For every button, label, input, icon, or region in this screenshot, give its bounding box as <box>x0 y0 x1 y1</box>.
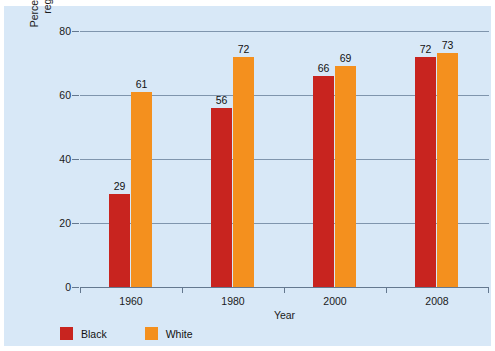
bar-value-label: 61 <box>136 78 148 90</box>
legend-label: White <box>166 328 193 340</box>
bar-rect <box>313 76 334 287</box>
ytick-dash-40 <box>72 159 79 160</box>
plot-area: 80 60 40 20 0 29 <box>80 31 489 287</box>
bar-group-2008: 72 73 2008 <box>386 31 488 287</box>
legend-swatch-icon <box>60 327 73 340</box>
ytick-label-60: 60 <box>59 89 71 101</box>
ytick-dash-80 <box>72 31 79 32</box>
legend-item-white[interactable]: White <box>145 327 193 340</box>
xtick-mark-4 <box>488 287 489 293</box>
xtick-label-1980: 1980 <box>221 295 244 307</box>
bar-rect <box>335 66 356 287</box>
legend-swatch-icon <box>145 327 158 340</box>
ytick-label-40: 40 <box>59 153 71 165</box>
ytick-label-80: 80 <box>59 25 71 37</box>
xtick-label-2000: 2000 <box>323 295 346 307</box>
bar-value-label: 72 <box>420 43 432 55</box>
legend-item-black[interactable]: Black <box>60 327 107 340</box>
x-axis-title: Year <box>80 309 489 321</box>
bar-group-1960: 29 61 1960 <box>80 31 182 287</box>
bar-rect <box>109 194 130 287</box>
bar-chart-figure: Percentage of eligible voters registered… <box>4 6 491 346</box>
y-axis-title: Percentage of eligible voters registered… <box>26 0 56 56</box>
bar-value-label: 69 <box>340 52 352 64</box>
bar-rect <box>415 57 436 287</box>
xtick-mark-3 <box>386 287 387 293</box>
bar-rect <box>233 57 254 287</box>
ytick-dash-20 <box>72 223 79 224</box>
bar-rect <box>211 108 232 287</box>
xtick-mark-2 <box>284 287 285 293</box>
xtick-label-2008: 2008 <box>425 295 448 307</box>
bar-value-label: 29 <box>114 180 126 192</box>
chart-legend: Black White <box>60 327 231 340</box>
legend-label: Black <box>81 328 107 340</box>
bar-value-label: 72 <box>238 43 250 55</box>
xtick-mark-0 <box>80 287 81 293</box>
bar-value-label: 73 <box>442 39 454 51</box>
xtick-mark-1 <box>182 287 183 293</box>
ytick-label-0: 0 <box>65 281 71 293</box>
xtick-label-1960: 1960 <box>119 295 142 307</box>
ytick-dash-0 <box>72 287 79 288</box>
bar-value-label: 66 <box>318 62 330 74</box>
ytick-label-20: 20 <box>59 217 71 229</box>
bar-rect <box>437 53 458 287</box>
bar-group-1980: 56 72 1980 <box>182 31 284 287</box>
ytick-dash-60 <box>72 95 79 96</box>
bar-value-label: 56 <box>216 94 228 106</box>
bar-rect <box>131 92 152 287</box>
bars-layer: 29 61 1960 56 72 1980 <box>80 31 489 287</box>
bar-group-2000: 66 69 2000 <box>284 31 386 287</box>
